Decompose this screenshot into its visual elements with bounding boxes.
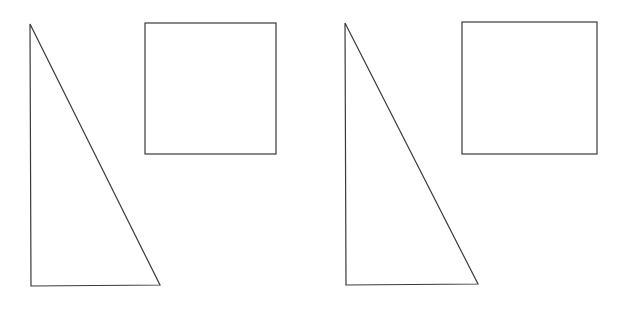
square-shape: [462, 22, 597, 154]
diagram-canvas: [0, 0, 626, 310]
left-figure: [30, 23, 276, 286]
right-figure: [345, 22, 597, 285]
right-triangle-shape: [345, 23, 478, 285]
right-triangle-shape: [30, 24, 160, 286]
square-shape: [145, 23, 276, 154]
